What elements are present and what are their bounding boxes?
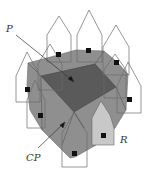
- marker: [101, 133, 106, 138]
- marker: [72, 151, 77, 156]
- marker: [56, 52, 61, 57]
- label-r: R: [119, 134, 128, 145]
- label-cp: CP: [26, 152, 41, 163]
- marker: [38, 113, 43, 118]
- marker: [86, 48, 91, 53]
- marker: [127, 97, 132, 102]
- marker: [25, 87, 30, 92]
- marker: [114, 60, 119, 65]
- polygon-diagram: P CP R: [0, 0, 150, 177]
- label-p: P: [5, 23, 13, 34]
